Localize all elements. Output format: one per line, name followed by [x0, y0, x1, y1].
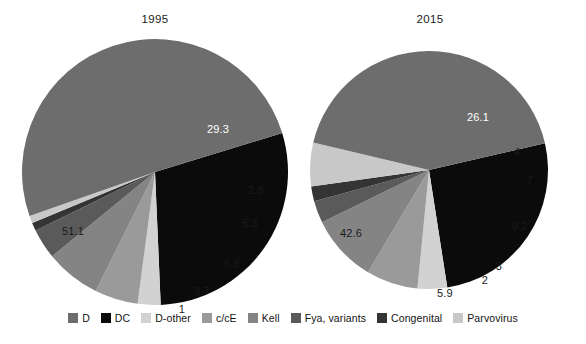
pie-slice-value-label: 42.6 [340, 227, 362, 239]
pie-slice-value-label: 3.7 [194, 285, 210, 297]
pie-chart-1995: 129.32.85.36.83.751.1 [22, 39, 288, 305]
legend-item-label: DC [115, 312, 130, 324]
legend-item-label: D [82, 312, 90, 324]
pie-slice-value-label: 51.1 [62, 225, 84, 237]
legend-item-label: Parvovirus [467, 312, 518, 324]
pie-chart-figure: 1995 2015 129.32.85.36.83.751.1 234726.1… [0, 0, 586, 344]
legend-swatch-icon [101, 313, 111, 323]
legend-item-label: Fya, variants [305, 312, 366, 324]
chart-legend: DDCD-otherc/cEKellFya, variantsCongenita… [0, 312, 586, 324]
legend-swatch-icon [68, 313, 78, 323]
pie-slice-value-label: 7 [527, 174, 533, 186]
pie-slice-value-label: 6.8 [224, 257, 240, 269]
pie-slice-value-label: 2.8 [248, 184, 264, 196]
legend-item: DC [101, 312, 130, 324]
legend-item: c/cE [202, 312, 237, 324]
legend-swatch-icon [377, 313, 387, 323]
pie-title-2015: 2015 [385, 13, 475, 25]
legend-item-label: Kell [262, 312, 280, 324]
legend-swatch-icon [248, 313, 258, 323]
pie-slice-value-label: 5.9 [437, 287, 453, 299]
legend-item: Parvovirus [453, 312, 518, 324]
pie-slice-value-label: 2 [482, 274, 488, 286]
pie-chart-2015: 234726.19.25.942.6 [310, 51, 548, 289]
legend-item-label: D-other [155, 312, 191, 324]
pie-1995-svg: 129.32.85.36.83.751.1 [22, 39, 288, 305]
pie-slice-value-label: 5.3 [242, 217, 258, 229]
legend-item: D [68, 312, 90, 324]
legend-swatch-icon [202, 313, 212, 323]
pie-slice-value-label: 26.1 [467, 111, 489, 123]
pie-2015-svg: 234726.19.25.942.6 [310, 51, 548, 289]
legend-swatch-icon [291, 313, 301, 323]
pie-slice-value-label: 4 [514, 146, 520, 158]
pie-slice-value-label: 29.3 [207, 123, 229, 135]
legend-item: Fya, variants [291, 312, 366, 324]
legend-item: D-other [141, 312, 191, 324]
pie-slice-value-label: 3 [496, 260, 502, 272]
legend-item-label: c/cE [216, 312, 237, 324]
legend-item-label: Congenital [391, 312, 442, 324]
legend-swatch-icon [453, 313, 463, 323]
legend-item: Congenital [377, 312, 442, 324]
legend-item: Kell [248, 312, 280, 324]
legend-swatch-icon [141, 313, 151, 323]
pie-slice-value-label: 9.2 [512, 220, 528, 232]
pie-title-1995: 1995 [110, 13, 200, 25]
